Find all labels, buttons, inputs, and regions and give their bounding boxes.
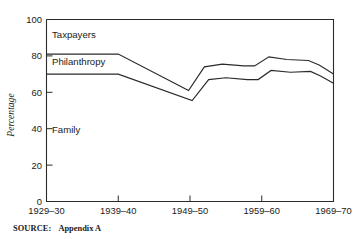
line-chart: 100 80 60 40 20 0 Percentage 1929–30 193… xyxy=(0,0,359,239)
x-axis-ticks xyxy=(118,196,262,202)
source-label: SOURCE: xyxy=(13,224,51,233)
y-axis-title: Percentage xyxy=(5,93,16,138)
x-tick-label-1949-50: 1949–50 xyxy=(172,205,209,216)
y-tick-label-60: 60 xyxy=(32,87,42,98)
source-text: Appendix A xyxy=(58,224,101,233)
plot-frame xyxy=(47,20,334,202)
x-axis-tick-labels: 1929–30 1939–40 1949–50 1959–60 1969–70 xyxy=(28,205,352,216)
band-label-family: Family xyxy=(52,124,80,135)
y-axis-ticks xyxy=(47,20,53,202)
y-axis-tick-labels: 100 80 60 40 20 0 xyxy=(26,14,42,207)
x-tick-label-1929-30: 1929–30 xyxy=(28,205,65,216)
band-label-taxpayers: Taxpayers xyxy=(52,29,96,40)
chart-figure: 100 80 60 40 20 0 Percentage 1929–30 193… xyxy=(0,0,359,239)
x-tick-label-1959-60: 1959–60 xyxy=(244,205,281,216)
series-line-family-upper xyxy=(47,70,334,100)
x-tick-label-1939-40: 1939–40 xyxy=(100,205,137,216)
y-tick-label-80: 80 xyxy=(32,50,42,61)
y-tick-label-40: 40 xyxy=(32,123,42,134)
y-tick-label-20: 20 xyxy=(32,160,42,171)
y-tick-label-100: 100 xyxy=(26,14,42,25)
source-note: SOURCE:Appendix A xyxy=(13,224,101,233)
x-tick-label-1969-70: 1969–70 xyxy=(315,205,352,216)
band-label-philanthropy: Philanthropy xyxy=(52,56,106,67)
